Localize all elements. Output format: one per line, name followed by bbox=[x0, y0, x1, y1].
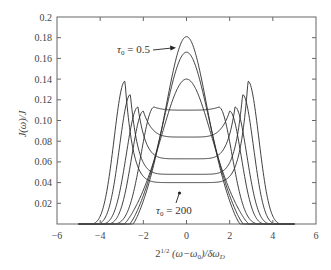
x-tick-label: 6 bbox=[314, 230, 319, 241]
line-profile-chart: 0.020.040.060.080.100.120.140.160.180.2 … bbox=[0, 0, 331, 270]
axis-ticks bbox=[57, 17, 316, 224]
y-tick-label: 0.14 bbox=[35, 74, 53, 85]
y-tick-labels: 0.020.040.060.080.100.120.140.160.180.2 bbox=[35, 12, 53, 209]
spectral-curves bbox=[79, 37, 295, 224]
y-tick-label: 0.18 bbox=[35, 32, 53, 43]
x-tick-label: −2 bbox=[138, 230, 149, 241]
x-tick-label: −6 bbox=[52, 230, 63, 241]
x-tick-labels: −6−4−20246 bbox=[52, 230, 319, 241]
y-tick-label: 0.2 bbox=[40, 12, 53, 23]
y-tick-label: 0.08 bbox=[35, 136, 53, 147]
series-curve-8 bbox=[79, 81, 295, 224]
plot-frame bbox=[57, 17, 316, 224]
series-curve-1 bbox=[79, 37, 295, 224]
series-curve-3 bbox=[79, 79, 295, 224]
annotation-tau-0-5: τ0 = 0.5 bbox=[117, 43, 150, 57]
arrow-icon-bottom bbox=[176, 191, 181, 203]
y-axis-label: J(ω)/J bbox=[17, 109, 29, 137]
arrow-icon-top bbox=[153, 46, 176, 51]
y-tick-label: 0.10 bbox=[35, 115, 53, 126]
y-tick-label: 0.02 bbox=[35, 198, 53, 209]
y-tick-label: 0.06 bbox=[35, 156, 53, 167]
x-tick-label: −4 bbox=[95, 230, 106, 241]
y-tick-label: 0.16 bbox=[35, 53, 53, 64]
x-tick-label: 0 bbox=[184, 230, 189, 241]
x-tick-label: 2 bbox=[227, 230, 232, 241]
y-tick-label: 0.12 bbox=[35, 94, 53, 105]
x-tick-label: 4 bbox=[270, 230, 275, 241]
y-tick-label: 0.04 bbox=[35, 177, 53, 188]
x-axis-label: 21/2 (ω−ω0)/δωD bbox=[155, 247, 225, 261]
annotation-tau-200: τ0 = 200 bbox=[156, 204, 192, 218]
